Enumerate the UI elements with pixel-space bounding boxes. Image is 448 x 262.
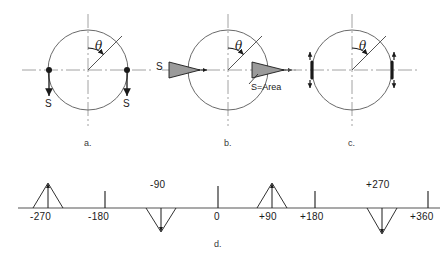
impulse--270 (33, 183, 63, 208)
panel-c-diagram (288, 14, 420, 126)
axis-label--270: -270 (30, 212, 51, 222)
impulse-90 (257, 183, 287, 208)
panel-b-diagram (162, 14, 296, 126)
axis-label--90: -90 (150, 180, 165, 190)
panel-b-left-shaded-triangle (169, 62, 200, 78)
impulse-270 (367, 208, 397, 234)
axis-label--180: -180 (88, 212, 109, 222)
panel-a-left-s-label: S (45, 99, 52, 109)
panel-b-area-label: S=Area (251, 83, 281, 92)
panel-a-theta-label: θ (95, 40, 102, 52)
panel-b-theta-label: θ (235, 40, 242, 52)
panel-d-number-line (18, 183, 440, 234)
panel-a-radius-line (88, 36, 122, 70)
panel-a-right-s-label: S (123, 99, 130, 109)
axis-label-180: +180 (300, 212, 324, 222)
panel-a-diagram (22, 14, 154, 126)
panel-a-caption: a. (84, 139, 92, 148)
axis-label-360: +360 (410, 212, 434, 222)
axis-label-270: +270 (366, 180, 390, 190)
impulse--90 (146, 208, 176, 232)
panel-c-theta-label: θ (359, 40, 366, 52)
panel-c-radius-line (352, 36, 386, 70)
figure-root: θ S S a. θ S S=Area b. θ c. -270 -180 -9… (0, 0, 448, 262)
panel-b-left-s-label: S (156, 62, 163, 72)
axis-label-90: +90 (259, 212, 277, 222)
panel-d-caption: d. (214, 240, 222, 249)
panel-c-caption: c. (348, 139, 355, 148)
figure-canvas (0, 0, 448, 262)
panel-b-caption: b. (224, 139, 232, 148)
axis-label-0: 0 (214, 212, 220, 222)
